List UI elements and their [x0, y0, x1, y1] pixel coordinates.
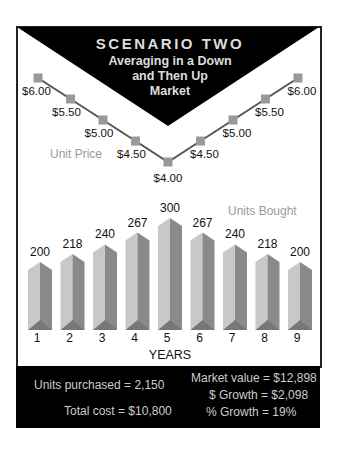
x-tick-label: 6: [196, 331, 203, 345]
x-tick-label: 9: [294, 331, 301, 345]
bar-left-face: [256, 254, 268, 330]
bar-right-face: [40, 262, 52, 330]
price-label: $5.50: [255, 106, 284, 118]
x-tick-label: 5: [164, 331, 171, 345]
bar-left-face: [28, 262, 40, 330]
dollar-growth: $ Growth = $2,098: [209, 388, 308, 402]
price-label: $4.50: [190, 148, 219, 160]
summary-box: Units purchased = 2,150 Total cost = $10…: [16, 366, 320, 428]
price-marker: [196, 137, 205, 146]
chart-subtitle-line1: Averaging in a Down: [0, 54, 340, 69]
bar-left-face: [223, 244, 235, 330]
x-tick-label: 8: [261, 331, 268, 345]
price-label: $4.50: [117, 148, 146, 160]
price-marker: [131, 137, 140, 146]
price-label: $4.00: [154, 172, 183, 184]
bar-left-face: [126, 233, 138, 330]
bar-value-label: 218: [257, 237, 277, 251]
chart-subtitle-line3: Market: [0, 84, 340, 99]
x-tick-label: 2: [66, 331, 73, 345]
bar-value-label: 240: [225, 227, 245, 241]
price-label: $5.50: [52, 106, 81, 118]
bar-value-label: 267: [127, 216, 147, 230]
units-purchased: Units purchased = 2,150: [34, 378, 164, 392]
percent-growth: % Growth = 19%: [206, 405, 296, 419]
bar-value-label: 300: [160, 201, 180, 215]
bar-value-label: 240: [95, 227, 115, 241]
bar-right-face: [138, 233, 150, 330]
bar-left-face: [158, 218, 170, 330]
market-value: Market value = $12,898: [191, 371, 317, 385]
bar-value-label: 267: [192, 216, 212, 230]
bar-right-face: [73, 254, 85, 330]
chart-subtitle-line2: and Then Up: [0, 69, 340, 84]
units-bought-label: Units Bought: [228, 204, 297, 218]
price-label: $5.00: [223, 127, 252, 139]
price-marker: [99, 116, 108, 125]
bar-right-face: [300, 262, 312, 330]
bar-right-face: [105, 244, 117, 330]
bar-value-label: 200: [30, 245, 50, 259]
bar-right-face: [203, 233, 215, 330]
bar-right-face: [170, 218, 182, 330]
x-axis-label: YEARS: [149, 348, 191, 362]
total-cost: Total cost = $10,800: [64, 404, 172, 418]
x-tick-label: 3: [99, 331, 106, 345]
price-marker: [229, 116, 238, 125]
bar-right-face: [235, 244, 247, 330]
bar-left-face: [191, 233, 203, 330]
bar-left-face: [288, 262, 300, 330]
unit-price-label: Unit Price: [50, 147, 102, 161]
bar-value-label: 218: [62, 237, 82, 251]
price-marker: [164, 158, 173, 167]
bar-left-face: [61, 254, 73, 330]
price-label: $5.00: [85, 127, 114, 139]
bar-right-face: [268, 254, 280, 330]
x-tick-label: 4: [131, 331, 138, 345]
bar-left-face: [93, 244, 105, 330]
x-tick-label: 7: [229, 331, 236, 345]
x-tick-label: 1: [34, 331, 41, 345]
chart-title: SCENARIO TWO: [0, 35, 340, 52]
bar-value-label: 200: [290, 245, 310, 259]
